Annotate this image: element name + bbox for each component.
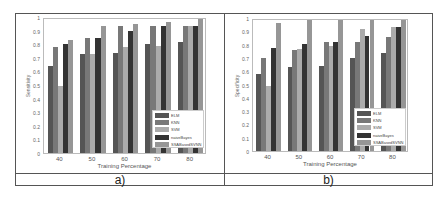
caption-b: b) — [225, 174, 432, 186]
x-tick-label: 60 — [115, 156, 135, 162]
y-tick-label: 0.8 — [26, 42, 40, 48]
x-axis-label: Training Percentage — [252, 161, 408, 167]
legend-label: SSABasedSVNN — [171, 142, 201, 147]
legend-item-svm: SVM — [357, 124, 382, 131]
legend-label: KNN — [171, 120, 179, 125]
legend-swatch — [357, 133, 371, 138]
legend-item-elm: ELM — [357, 110, 381, 117]
legend-label: SVM — [373, 125, 382, 130]
legend-item-ssabasedsvnn: SSABasedSVNN — [357, 139, 403, 146]
y-axis-label: Specificity — [234, 61, 240, 111]
legend-swatch — [155, 127, 169, 132]
y-tick-label: 0.8 — [235, 43, 249, 49]
x-tick-label: 80 — [382, 154, 402, 160]
legend-item-svm: SVM — [155, 126, 180, 133]
legend-swatch — [155, 135, 169, 140]
y-axis-label: Sensitivity — [25, 61, 31, 111]
legend-swatch — [357, 140, 371, 145]
legend-swatch — [357, 111, 371, 116]
y-tick-label: 1 — [235, 16, 249, 22]
legend-swatch — [357, 125, 371, 130]
bar-ssabasedsvnn-60 — [133, 24, 138, 153]
y-tick-label: 0 — [235, 149, 249, 155]
x-tick-label: 50 — [289, 154, 309, 160]
y-tick-label: 0.9 — [26, 29, 40, 35]
y-tick-label: 0 — [26, 151, 40, 157]
x-tick-label: 60 — [320, 154, 340, 160]
y-tick-label: 0.2 — [235, 122, 249, 128]
x-tick-label: 40 — [49, 156, 69, 162]
legend-item-naivebayes: naiveBayes — [155, 134, 192, 141]
legend-label: ELM — [373, 111, 381, 116]
y-tick-label: 0.9 — [235, 29, 249, 35]
legend-swatch — [155, 113, 169, 118]
y-tick-label: 0.2 — [26, 124, 40, 130]
bar-ssabasedsvnn-50 — [101, 26, 106, 153]
legend-label: SSABasedSVNN — [373, 140, 403, 145]
legend-label: ELM — [171, 113, 179, 118]
x-tick-label: 70 — [351, 154, 371, 160]
legend-item-naivebayes: naiveBayes — [357, 132, 394, 139]
x-tick-label: 40 — [258, 154, 278, 160]
y-tick-label: 0.1 — [26, 137, 40, 143]
column-divider — [224, 14, 225, 185]
legend-swatch — [155, 120, 169, 125]
legend-label: SVM — [171, 127, 180, 132]
x-tick-label: 70 — [147, 156, 167, 162]
legend-label: KNN — [373, 118, 381, 123]
legend-item-elm: ELM — [155, 112, 179, 119]
legend-item-knn: KNN — [155, 119, 179, 126]
legend-swatch — [357, 118, 371, 123]
bar-ssabasedsvnn-40 — [68, 40, 73, 153]
legend-item-ssabasedsvnn: SSABasedSVNN — [155, 141, 201, 148]
y-tick-label: 1 — [26, 15, 40, 21]
legend-swatch — [155, 142, 169, 147]
x-tick-label: 80 — [180, 156, 200, 162]
legend-label: naiveBayes — [373, 133, 394, 138]
y-tick-label: 0.3 — [26, 110, 40, 116]
caption-a: a) — [16, 174, 224, 186]
legend-label: naiveBayes — [171, 135, 192, 140]
bar-ssabasedsvnn-60 — [338, 20, 343, 151]
x-tick-label: 50 — [82, 156, 102, 162]
y-tick-label: 0.1 — [235, 136, 249, 142]
legend: ELMKNNSVMnaiveBayesSSABasedSVNN — [152, 110, 204, 148]
x-axis-label: Training Percentage — [43, 163, 206, 169]
bar-ssabasedsvnn-40 — [276, 23, 281, 151]
legend-item-knn: KNN — [357, 117, 381, 124]
legend: ELMKNNSVMnaiveBayesSSABasedSVNN — [354, 108, 406, 146]
bar-ssabasedsvnn-50 — [307, 20, 312, 151]
